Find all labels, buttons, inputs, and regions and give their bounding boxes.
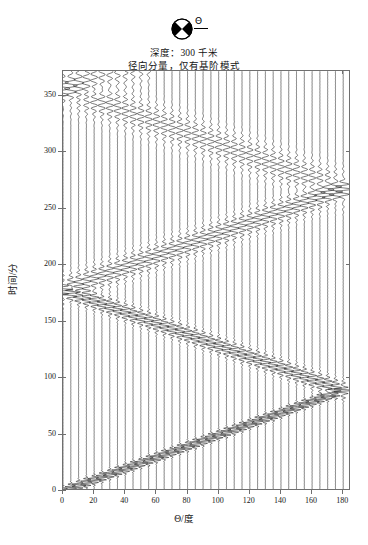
x-tick <box>187 490 188 494</box>
x-tick-label: 60 <box>140 496 170 505</box>
seismic-trace <box>228 71 242 490</box>
x-tick <box>155 490 156 494</box>
y-tick-label: 150 <box>16 316 56 325</box>
seismic-trace <box>72 71 86 490</box>
seismic-trace <box>328 71 343 490</box>
x-tick <box>93 490 94 494</box>
x-tick-label: 0 <box>47 496 77 505</box>
x-tick-label: 100 <box>203 496 233 505</box>
x-tick <box>342 490 343 494</box>
y-tick-label: 250 <box>16 203 56 212</box>
y-tick-label: 350 <box>16 90 56 99</box>
figure-header: Θ 深度：300 千米 径向分量，仅有基阶模式 <box>0 18 368 72</box>
seismic-trace <box>119 71 133 490</box>
seismic-trace <box>314 71 325 490</box>
seismic-trace <box>306 71 320 490</box>
seismic-trace <box>190 71 201 490</box>
x-tick <box>280 490 281 494</box>
seismic-trace <box>259 71 273 490</box>
x-tick <box>218 490 219 494</box>
seismic-trace <box>143 71 154 490</box>
plot-area <box>62 70 350 490</box>
seismic-trace <box>63 71 73 490</box>
x-axis-title: Θ/度 <box>0 511 368 525</box>
y-tick-label: 100 <box>16 372 56 381</box>
theta-underline-icon <box>194 27 208 30</box>
x-tick <box>311 490 312 494</box>
seismic-trace <box>63 71 78 490</box>
seismic-trace <box>96 71 107 490</box>
y-tick-right <box>346 151 350 152</box>
seismic-trace <box>299 71 310 490</box>
seismic-trace <box>205 71 216 490</box>
seismic-trace <box>274 71 288 490</box>
seismic-trace <box>112 71 123 490</box>
y-tick-inner <box>62 95 66 96</box>
seismic-traces <box>63 71 350 490</box>
y-tick-inner <box>62 377 66 378</box>
x-tick-label: 20 <box>78 496 108 505</box>
seismic-trace <box>158 71 169 490</box>
y-tick-label: 50 <box>16 429 56 438</box>
x-tick-label: 160 <box>296 496 326 505</box>
seismic-trace <box>283 71 295 490</box>
depth-label: 深度：300 千米 <box>0 47 368 59</box>
seismic-trace <box>134 71 148 490</box>
x-tick-label: 120 <box>234 496 264 505</box>
seismic-trace <box>221 71 232 490</box>
y-tick-inner <box>62 264 66 265</box>
y-tick-label: 0 <box>16 485 56 494</box>
seismic-trace <box>321 71 336 490</box>
x-tick-label: 40 <box>109 496 139 505</box>
x-tick <box>62 490 63 494</box>
y-axis-title: 时间/分 <box>5 249 19 309</box>
x-tick <box>124 490 125 494</box>
seismic-trace <box>290 71 304 490</box>
y-tick-inner <box>62 208 66 209</box>
y-tick-inner <box>62 151 66 152</box>
seismic-trace <box>212 71 226 490</box>
x-tick-label: 140 <box>265 496 295 505</box>
theta-symbol: Θ <box>195 17 202 26</box>
seismic-trace <box>252 71 263 490</box>
seismic-trace <box>267 71 278 490</box>
seismic-trace <box>334 71 350 490</box>
x-tick-label: 80 <box>172 496 202 505</box>
y-tick-inner <box>62 434 66 435</box>
seismic-trace <box>196 71 210 490</box>
x-tick-top <box>342 70 343 74</box>
beachball-focal-mechanism-icon: Θ <box>171 18 197 40</box>
x-tick <box>249 490 250 494</box>
header-icon-row: Θ <box>0 18 368 40</box>
seismogram-figure: Θ 深度：300 千米 径向分量，仅有基阶模式 0501001502002503… <box>0 0 368 545</box>
x-tick-top <box>62 70 63 74</box>
seismic-trace <box>127 71 138 490</box>
x-tick-label: 180 <box>327 496 357 505</box>
seismic-trace <box>174 71 185 490</box>
y-tick-right <box>346 377 350 378</box>
y-tick-inner <box>62 321 66 322</box>
y-tick-label: 200 <box>16 259 56 268</box>
y-tick-right <box>346 264 350 265</box>
y-tick-label: 300 <box>16 146 56 155</box>
